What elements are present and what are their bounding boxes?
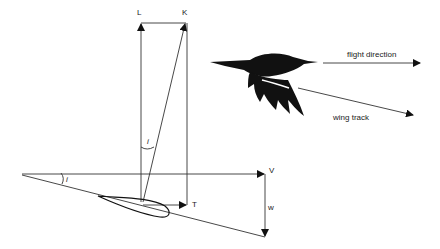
thrust-label: T [192,200,197,209]
angle-arc-bottom [61,173,63,184]
downwash-label: w [268,203,274,212]
lift-label: L [137,8,141,17]
wing-track-arrow [298,88,413,115]
flight-force-diagram: L K V T w i i flight direction wing trac… [0,0,440,249]
airfoil [98,196,169,217]
diagram-canvas [0,0,440,249]
velocity-label: V [269,166,274,175]
bird-silhouette [210,54,318,116]
wing-track-label: wing track [333,113,369,122]
resultant-label: K [182,8,187,17]
angle-label-bottom: i [66,175,68,184]
flight-direction-label: flight direction [347,50,396,59]
angle-label-top: i [147,137,149,146]
angle-arc-top [141,147,154,149]
chord-line [22,175,265,237]
resultant-vector [143,24,185,202]
